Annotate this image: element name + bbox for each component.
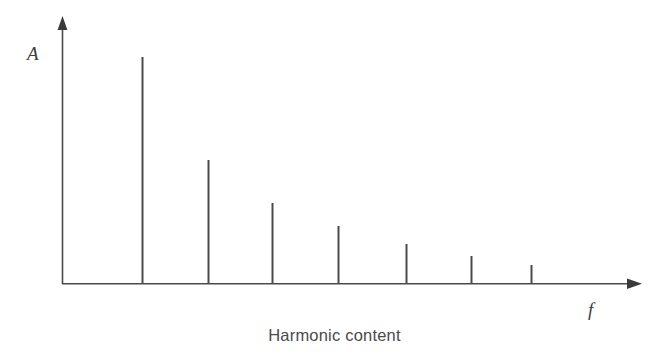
figure-root: A f Harmonic content [0,0,669,361]
figure-caption: Harmonic content [0,326,669,345]
y-axis-group [58,16,68,284]
harmonic-bars-group [143,57,532,284]
harmonic-content-chart: A f [0,0,669,361]
y-axis-label: A [25,43,39,64]
y-axis-arrowhead-icon [58,16,68,30]
x-axis-group [62,279,642,289]
x-axis-label: f [588,299,596,320]
x-axis-arrowhead-icon [627,279,642,289]
